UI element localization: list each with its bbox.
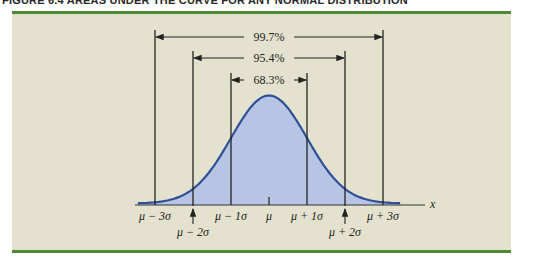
interval-label: 95.4% [254,51,285,65]
x-axis-label: x [429,197,436,211]
tick-label: μ − 2σ [176,225,210,239]
tick-labels: μ − 3σμ − 2σμ − 1σμμ + 1σμ + 2σμ + 3σ [138,209,400,239]
normal-curve-chart: x 68.3%95.4%99.7% μ − 3σμ − 2σμ − 1σμμ +… [0,0,549,264]
tick-label: μ [265,209,272,223]
tick-label: μ − 3σ [138,209,172,223]
tick-label: μ + 2σ [328,225,362,239]
curve-area-fill [138,96,400,206]
interval-label: 99.7% [254,30,285,44]
interval-label: 68.3% [254,73,285,87]
tick-label: μ + 3σ [366,209,400,223]
tick-label: μ + 1σ [290,209,324,223]
normal-curve [138,96,400,206]
tick-label: μ − 1σ [214,209,248,223]
interval-brackets: 68.3%95.4%99.7% [156,30,382,87]
